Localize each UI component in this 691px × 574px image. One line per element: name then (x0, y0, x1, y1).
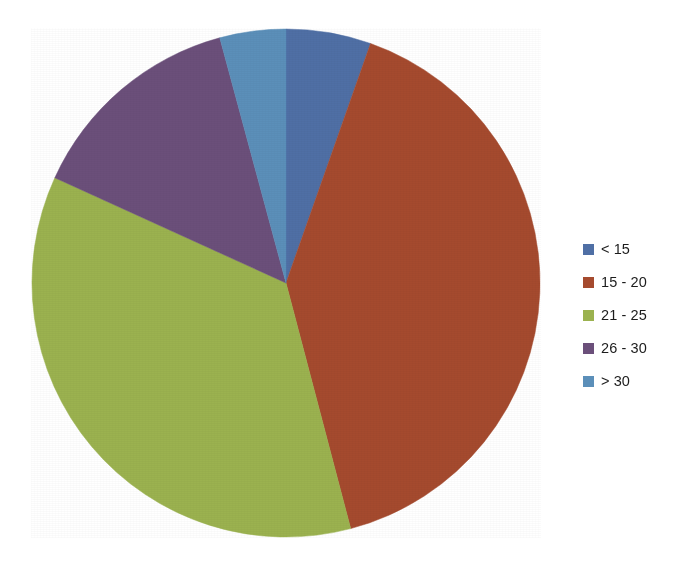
pie-chart-figure: < 15 15 - 20 21 - 25 26 - 30 > 30 (0, 0, 691, 574)
legend-swatch-15-20 (583, 277, 594, 288)
legend-swatch-26-30 (583, 343, 594, 354)
legend-item-lt-15[interactable]: < 15 (583, 233, 687, 266)
legend-label-gt-30: > 30 (601, 374, 630, 389)
legend-item-21-25[interactable]: 21 - 25 (583, 299, 687, 332)
legend-label-15-20: 15 - 20 (601, 275, 647, 290)
legend-label-lt-15: < 15 (601, 242, 630, 257)
legend-item-15-20[interactable]: 15 - 20 (583, 266, 687, 299)
chart-legend: < 15 15 - 20 21 - 25 26 - 30 > 30 (583, 233, 687, 398)
legend-swatch-lt-15 (583, 244, 594, 255)
legend-label-26-30: 26 - 30 (601, 341, 647, 356)
pie-chart-plot-area (31, 28, 541, 538)
legend-item-26-30[interactable]: 26 - 30 (583, 332, 687, 365)
legend-swatch-gt-30 (583, 376, 594, 387)
pie-chart-svg (31, 28, 541, 538)
pie-slice-group (32, 29, 540, 537)
legend-swatch-21-25 (583, 310, 594, 321)
legend-item-gt-30[interactable]: > 30 (583, 365, 687, 398)
legend-label-21-25: 21 - 25 (601, 308, 647, 323)
